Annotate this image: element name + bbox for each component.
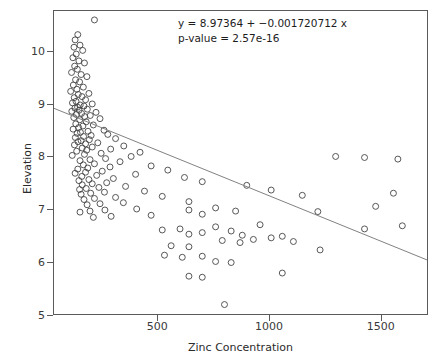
data-point	[71, 44, 77, 50]
y-tick-label: 6	[0, 256, 45, 269]
data-point	[96, 184, 102, 190]
data-point	[77, 158, 83, 164]
y-tick-label: 9	[0, 97, 45, 110]
data-point	[250, 236, 256, 242]
data-point	[97, 201, 103, 207]
y-tick-mark	[47, 104, 53, 105]
data-point	[233, 208, 239, 214]
regression-annotation-box: y = 8.97364 + −0.001720712 x p-value = 2…	[158, 11, 426, 53]
x-tick-label: 500	[147, 320, 168, 333]
data-point	[315, 209, 321, 215]
data-point	[79, 173, 85, 179]
data-point	[159, 227, 165, 233]
x-tick-label: 1000	[255, 320, 283, 333]
data-point	[279, 270, 285, 276]
data-point	[90, 214, 96, 220]
y-tick-label: 5	[0, 309, 45, 322]
data-point	[199, 274, 205, 280]
data-point	[80, 47, 86, 53]
chart-root: y = 8.97364 + −0.001720712 x p-value = 2…	[0, 0, 443, 364]
data-point	[101, 189, 107, 195]
data-point	[141, 188, 147, 194]
data-point	[120, 200, 126, 206]
x-tick-label: 1500	[367, 320, 395, 333]
data-point	[78, 72, 84, 78]
data-point	[91, 161, 97, 167]
data-point	[213, 224, 219, 230]
data-point	[76, 58, 82, 64]
data-point	[186, 207, 192, 213]
data-point	[76, 178, 82, 184]
data-point	[237, 240, 243, 246]
data-point	[98, 150, 104, 156]
data-point	[186, 244, 192, 250]
data-point	[110, 176, 116, 182]
data-point	[390, 190, 396, 196]
data-point	[213, 259, 219, 265]
data-point	[290, 239, 296, 245]
data-point	[84, 202, 90, 208]
data-point	[181, 174, 187, 180]
data-point	[137, 149, 143, 155]
data-point	[165, 167, 171, 173]
data-point	[103, 156, 109, 162]
data-point	[186, 199, 192, 205]
regression-equation-text: y = 8.97364 + −0.001720712 x	[178, 16, 426, 31]
data-point	[69, 152, 75, 158]
data-point	[133, 171, 139, 177]
data-point	[219, 238, 225, 244]
data-point	[128, 153, 134, 159]
data-point	[317, 247, 323, 253]
data-point	[199, 211, 205, 217]
data-point	[83, 141, 89, 147]
data-point	[159, 193, 165, 199]
data-point	[91, 195, 97, 201]
data-point	[83, 97, 89, 103]
data-point	[113, 136, 119, 142]
data-point	[299, 192, 305, 198]
data-point	[72, 37, 78, 43]
data-points-group	[68, 17, 406, 308]
data-point	[186, 273, 192, 279]
data-point	[228, 228, 234, 234]
data-point	[399, 223, 405, 229]
data-point	[257, 222, 263, 228]
y-tick-mark	[47, 262, 53, 263]
data-point	[222, 302, 228, 308]
y-tick-mark	[47, 209, 53, 210]
data-point	[70, 55, 76, 61]
data-point	[148, 163, 154, 169]
data-point	[123, 183, 129, 189]
data-point	[105, 131, 111, 137]
y-tick-mark	[47, 51, 53, 52]
data-point	[199, 179, 205, 185]
y-tick-label: 10	[0, 44, 45, 57]
data-point	[87, 113, 93, 119]
data-point	[362, 226, 368, 232]
data-point	[179, 254, 185, 260]
x-axis-label: Zinc Concentration	[53, 341, 428, 354]
data-point	[71, 142, 77, 148]
data-point	[168, 243, 174, 249]
data-point	[121, 143, 127, 149]
y-tick-mark	[47, 156, 53, 157]
data-point	[80, 84, 86, 90]
data-point	[117, 159, 123, 165]
data-point	[73, 51, 79, 57]
data-point	[228, 260, 234, 266]
y-tick-label: 8	[0, 150, 45, 163]
data-point	[69, 69, 75, 75]
data-point	[268, 235, 274, 241]
data-point	[213, 205, 219, 211]
data-point	[85, 128, 91, 134]
data-point	[102, 207, 108, 213]
p-value-text: p-value = 2.57e-16	[178, 31, 426, 46]
data-point	[373, 203, 379, 209]
data-point	[95, 140, 101, 146]
data-point	[88, 190, 94, 196]
data-point	[239, 232, 245, 238]
data-point	[108, 146, 114, 152]
y-axis-label: Elevation	[21, 89, 34, 249]
data-point	[68, 88, 74, 94]
data-point	[333, 153, 339, 159]
